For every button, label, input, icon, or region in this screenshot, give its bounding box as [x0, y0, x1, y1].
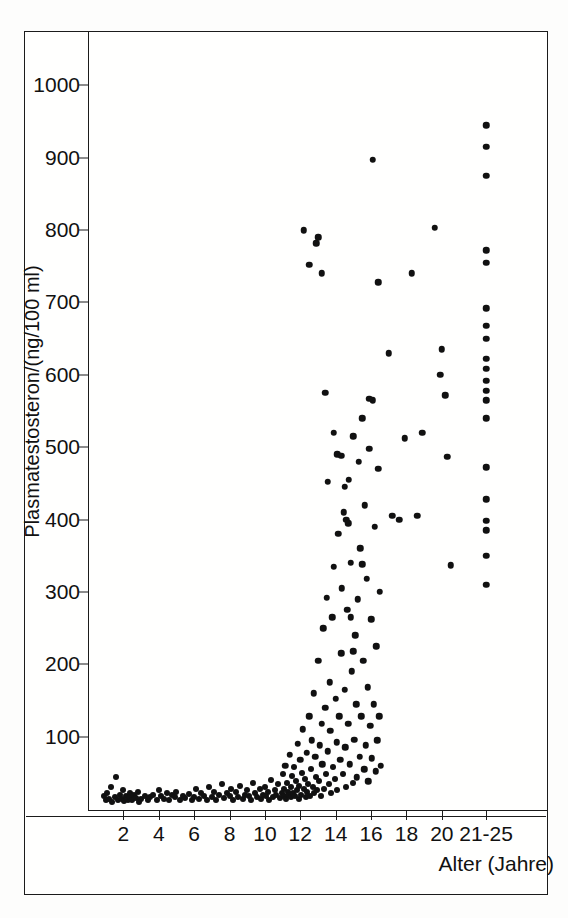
x-axis-tick-label: 8: [224, 822, 236, 846]
y-axis-tick-mark: [79, 664, 88, 665]
x-axis-tick-mark: [265, 811, 266, 820]
y-axis-label: Plasmatestosteron/(ng/100 ml): [21, 82, 44, 722]
plot-axes-box: [88, 31, 548, 811]
y-axis-tick-mark: [79, 157, 88, 158]
x-axis-tick-mark: [194, 811, 195, 820]
x-axis-tick-mark: [486, 811, 487, 820]
y-axis-tick-mark: [79, 736, 88, 737]
x-axis-tick-label: 12: [289, 822, 312, 846]
x-axis-tick-mark: [406, 811, 407, 820]
x-axis-tick-mark: [300, 811, 301, 820]
y-axis-tick-mark: [79, 85, 88, 86]
y-axis-tick-mark: [79, 230, 88, 231]
y-axis-tick-mark: [79, 591, 88, 592]
figure-canvas: 1002003004005006007008009001000246810121…: [0, 0, 568, 918]
y-axis-tick-mark: [79, 302, 88, 303]
x-axis-tick-label: 20: [430, 822, 453, 846]
y-axis-tick-mark: [79, 374, 88, 375]
y-axis-tick-mark: [79, 447, 88, 448]
x-axis-tick-label: 4: [153, 822, 165, 846]
x-axis-tick-label: 2: [118, 822, 130, 846]
x-axis-tick-label: 14: [324, 822, 347, 846]
x-axis-tick-mark: [230, 811, 231, 820]
x-axis-tick-mark: [371, 811, 372, 820]
x-axis-tick-mark: [336, 811, 337, 820]
axis-secondary-rule: [26, 816, 546, 817]
x-axis-label: Alter (Jahre): [438, 852, 554, 876]
y-axis-tick-label: 100: [0, 725, 80, 749]
x-axis-tick-label: 18: [395, 822, 418, 846]
x-axis-tick-mark: [442, 811, 443, 820]
x-axis-tick-label: 16: [359, 822, 382, 846]
x-axis-tick-label: 10: [253, 822, 276, 846]
x-axis-tick-label: 6: [188, 822, 200, 846]
x-axis-tick-label: 21-25: [459, 822, 513, 846]
x-axis-tick-mark: [159, 811, 160, 820]
x-axis-tick-mark: [123, 811, 124, 820]
y-axis-tick-mark: [79, 519, 88, 520]
